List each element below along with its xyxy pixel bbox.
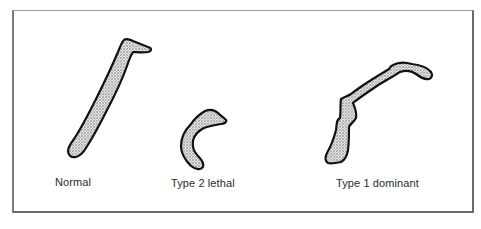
type2-bone-icon	[181, 110, 226, 169]
label-type1-dominant: Type 1 dominant	[336, 177, 419, 189]
type1-bone-icon	[326, 63, 432, 164]
normal-bone-icon	[68, 39, 151, 157]
label-type2-lethal: Type 2 lethal	[171, 177, 235, 189]
label-normal: Normal	[55, 176, 91, 188]
bone-figure	[0, 0, 481, 229]
